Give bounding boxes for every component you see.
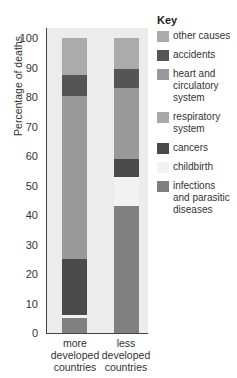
legend: Key other causesaccidentsheart andcircul… <box>157 14 237 223</box>
legend-label: respiratorysystem <box>173 111 220 135</box>
y-axis-line <box>46 28 47 334</box>
bar-segment-cancers <box>114 159 139 177</box>
x-label-line: developed <box>101 349 151 361</box>
legend-label: accidents <box>173 49 215 61</box>
bar-segment-infections <box>114 206 139 333</box>
x-label-line: developed <box>50 349 100 361</box>
y-tick-label: 80 <box>14 91 38 103</box>
bar-segment-accidents <box>62 75 87 96</box>
y-tick-label: 50 <box>14 180 38 192</box>
y-tick-label: 40 <box>14 209 38 221</box>
legend-item: other causes <box>157 30 237 42</box>
y-tick-label: 90 <box>14 62 38 74</box>
legend-swatch <box>157 143 169 154</box>
x-label-line: less <box>101 337 151 349</box>
bar-segment-cancers <box>62 259 87 315</box>
legend-item: infectionsand parasiticdiseases <box>157 180 237 216</box>
y-tick-label: 30 <box>14 239 38 251</box>
legend-item: childbirth <box>157 161 237 173</box>
legend-item: accidents <box>157 49 237 61</box>
y-tick-label: 10 <box>14 298 38 310</box>
x-label-line: countries <box>101 361 151 373</box>
legend-label: other causes <box>173 30 230 42</box>
legend-swatch <box>157 181 169 192</box>
x-label-more-developed: moredevelopedcountries <box>50 337 100 373</box>
legend-swatch <box>157 69 169 80</box>
bar-segment-heart <box>114 88 139 159</box>
bar-more-developed <box>62 0 87 333</box>
legend-item: heart andcirculatorysystem <box>157 68 237 104</box>
legend-label: cancers <box>173 142 208 154</box>
bar-segment-infections <box>62 318 87 333</box>
y-tick-label: 100 <box>14 32 38 44</box>
x-axis-line <box>46 333 148 334</box>
y-tick-label: 0 <box>14 327 38 339</box>
bar-less-developed <box>114 0 139 333</box>
legend-title: Key <box>157 14 237 26</box>
bar-segment-childbirth <box>114 177 139 207</box>
y-tick-label: 70 <box>14 121 38 133</box>
legend-swatch <box>157 162 169 173</box>
x-label-line: more <box>50 337 100 349</box>
y-tick-label: 60 <box>14 150 38 162</box>
x-label-line: countries <box>50 361 100 373</box>
bar-segment-other <box>62 38 87 75</box>
legend-swatch <box>157 112 169 123</box>
bar-segment-childbirth <box>62 315 87 318</box>
legend-item: respiratorysystem <box>157 111 237 135</box>
x-label-less-developed: lessdevelopedcountries <box>101 337 151 373</box>
legend-label: infectionsand parasiticdiseases <box>173 180 230 216</box>
bar-segment-other <box>114 38 139 69</box>
legend-item: cancers <box>157 142 237 154</box>
bar-segment-heart <box>62 96 87 260</box>
legend-label: heart andcirculatorysystem <box>173 68 219 104</box>
legend-label: childbirth <box>173 161 213 173</box>
bar-segment-accidents <box>114 69 139 88</box>
legend-swatch <box>157 50 169 61</box>
legend-swatch <box>157 31 169 42</box>
y-tick-label: 20 <box>14 268 38 280</box>
